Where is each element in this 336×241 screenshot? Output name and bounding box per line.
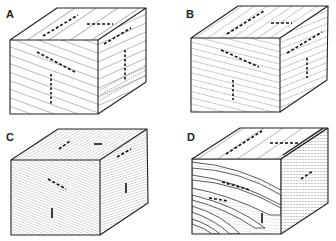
block-d xyxy=(192,125,328,234)
block-b-front-face xyxy=(191,38,280,112)
block-diagrams xyxy=(0,0,336,241)
block-a-front-face xyxy=(10,40,98,114)
block-c xyxy=(11,129,148,235)
block-a xyxy=(10,8,146,114)
block-c-front-face xyxy=(11,160,100,235)
block-b xyxy=(191,6,328,112)
